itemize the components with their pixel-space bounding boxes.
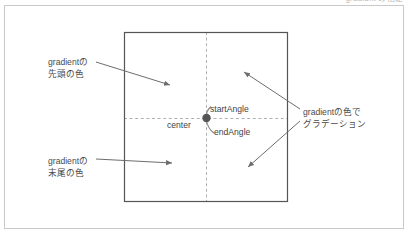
annotation-head-line1: gradientの	[48, 57, 88, 69]
center-point-dot	[202, 114, 210, 122]
end-angle-label: endAngle	[214, 127, 250, 138]
annotation-gradient-fill: gradientの色で グラデーション	[303, 107, 366, 130]
center-label: center	[167, 120, 191, 131]
annotation-tail-line2: 末尾の色	[48, 168, 88, 180]
annotation-head-line2: 先頭の色	[48, 69, 88, 81]
leader-line-tail-color	[96, 159, 172, 163]
annotation-fill-line1: gradientの色で	[303, 107, 366, 119]
leader-line-gradient-upper	[244, 72, 300, 109]
annotation-gradient-head-color: gradientの 先頭の色	[48, 57, 88, 80]
annotation-fill-line2: グラデーション	[303, 119, 366, 131]
diagram-root: gradient の指定 gradientの 先頭の色 gr	[0, 0, 409, 238]
leader-line-gradient-lower	[248, 121, 300, 167]
annotation-tail-line1: gradientの	[48, 156, 88, 168]
annotation-gradient-tail-color: gradientの 末尾の色	[48, 156, 88, 179]
leader-line-head-color	[96, 62, 170, 85]
start-angle-label: startAngle	[210, 104, 249, 115]
